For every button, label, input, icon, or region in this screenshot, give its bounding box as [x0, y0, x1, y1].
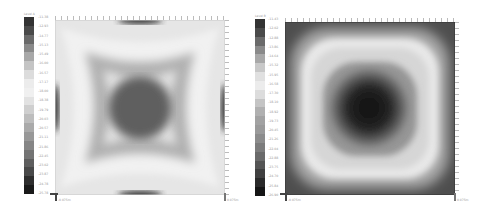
- legend-tick-label: -15.49: [38, 52, 48, 56]
- legend-swatch: [24, 35, 34, 44]
- left-right-ticks: [225, 20, 229, 195]
- legend-swatch: [24, 44, 34, 53]
- legend-swatch: [24, 159, 34, 168]
- legend-tick-label: -12.88: [268, 36, 278, 40]
- legend-tick-label: -12.93: [38, 24, 48, 28]
- legend-tick-label: -23.87: [38, 172, 48, 176]
- legend-tick-label: -20.57: [38, 126, 48, 130]
- legend-swatch: [24, 123, 34, 132]
- legend-tick-label: -20.45: [268, 128, 278, 132]
- legend-tick-label: -11.38: [38, 15, 48, 19]
- right-right-ticks: [455, 22, 459, 195]
- right-legend-labels: -11.43-12.02-12.88-13.86-14.64-15.32-15.…: [268, 17, 278, 197]
- right-end-mark: [454, 193, 456, 201]
- right-x-min-label: -0.075m: [288, 198, 301, 202]
- legend-tick-label: -14.77: [38, 34, 48, 38]
- legend-tick-label: -11.43: [268, 17, 278, 21]
- legend-tick-label: -15.32: [268, 63, 278, 67]
- legend-swatch: [255, 81, 265, 90]
- right-color-legend: [255, 19, 265, 196]
- legend-tick-label: -25.78: [38, 191, 48, 195]
- right-heatmap-panel: Level B -11.43-12.02-12.88-13.86-14.64-1…: [243, 0, 486, 214]
- left-heatmap-plot: [55, 20, 225, 195]
- legend-tick-label: -16.58: [268, 82, 278, 86]
- legend-swatch: [24, 26, 34, 35]
- legend-swatch: [255, 178, 265, 187]
- left-color-legend: [24, 17, 34, 194]
- legend-tick-label: -16.00: [38, 61, 48, 65]
- legend-tick-label: -15.95: [268, 73, 278, 77]
- legend-swatch: [24, 185, 34, 194]
- legend-tick-label: -14.64: [268, 54, 278, 58]
- right-x-max-label: 0.075m: [457, 198, 469, 202]
- legend-swatch: [255, 37, 265, 46]
- legend-swatch: [255, 63, 265, 72]
- legend-swatch: [24, 17, 34, 26]
- legend-swatch: [24, 97, 34, 106]
- legend-tick-label: -15.13: [38, 43, 48, 47]
- legend-swatch: [255, 169, 265, 178]
- left-heatmap-panel: Level A -11.38-12.93-14.77-15.13-15.49-1…: [0, 0, 243, 214]
- legend-swatch: [24, 176, 34, 185]
- left-top-ticks: [55, 16, 225, 20]
- legend-swatch: [24, 167, 34, 176]
- legend-swatch: [255, 28, 265, 37]
- left-legend-title: Level A: [24, 12, 35, 16]
- legend-swatch: [255, 152, 265, 161]
- legend-swatch: [255, 134, 265, 143]
- left-end-mark: [224, 193, 226, 201]
- right-origin-mark-v: [285, 193, 287, 201]
- legend-swatch: [255, 99, 265, 108]
- right-origin-mark: [280, 193, 288, 195]
- legend-tick-label: -13.86: [268, 45, 278, 49]
- legend-tick-label: -18.00: [38, 89, 48, 93]
- left-x-min-label: -0.075m: [58, 198, 71, 202]
- legend-tick-label: -18.92: [268, 110, 278, 114]
- legend-swatch: [24, 70, 34, 79]
- legend-swatch: [24, 132, 34, 141]
- legend-tick-label: -16.57: [38, 71, 48, 75]
- legend-tick-label: -21.26: [268, 137, 278, 141]
- legend-tick-label: -23.75: [268, 165, 278, 169]
- legend-tick-label: -17.30: [268, 91, 278, 95]
- legend-tick-label: -21.86: [38, 145, 48, 149]
- legend-swatch: [255, 187, 265, 196]
- legend-tick-label: -19.79: [38, 108, 48, 112]
- legend-swatch: [24, 79, 34, 88]
- legend-swatch: [255, 107, 265, 116]
- legend-tick-label: -19.73: [268, 119, 278, 123]
- legend-swatch: [24, 105, 34, 114]
- legend-swatch: [24, 88, 34, 97]
- left-legend-labels: -11.38-12.93-14.77-15.13-15.49-16.00-16.…: [38, 15, 48, 195]
- right-legend-title: Level B: [255, 14, 266, 18]
- legend-tick-label: -26.90: [268, 193, 278, 197]
- legend-swatch: [255, 46, 265, 55]
- legend-swatch: [255, 116, 265, 125]
- left-x-max-label: 0.075m: [227, 198, 239, 202]
- legend-tick-label: -22.88: [268, 156, 278, 160]
- legend-tick-label: -24.70: [268, 174, 278, 178]
- legend-swatch: [24, 141, 34, 150]
- legend-swatch: [255, 19, 265, 28]
- legend-tick-label: -12.02: [268, 26, 278, 30]
- legend-swatch: [255, 125, 265, 134]
- legend-tick-label: -23.02: [38, 163, 48, 167]
- left-origin-mark-v: [55, 193, 57, 201]
- legend-swatch: [24, 52, 34, 61]
- legend-tick-label: -17.17: [38, 80, 48, 84]
- legend-tick-label: -22.45: [38, 154, 48, 158]
- legend-tick-label: -24.78: [38, 182, 48, 186]
- legend-tick-label: -21.11: [38, 135, 48, 139]
- legend-swatch: [255, 72, 265, 81]
- legend-tick-label: -18.38: [38, 98, 48, 102]
- legend-swatch: [255, 90, 265, 99]
- legend-tick-label: -18.10: [268, 100, 278, 104]
- legend-tick-label: -25.84: [268, 184, 278, 188]
- legend-tick-label: -20.03: [38, 117, 48, 121]
- legend-tick-label: -22.04: [268, 147, 278, 151]
- legend-swatch: [24, 61, 34, 70]
- legend-swatch: [24, 114, 34, 123]
- legend-swatch: [24, 150, 34, 159]
- legend-swatch: [255, 161, 265, 170]
- right-heatmap-plot: [285, 22, 455, 195]
